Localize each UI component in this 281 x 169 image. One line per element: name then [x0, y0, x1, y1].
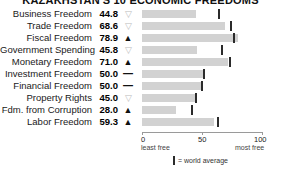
bar-track: [142, 106, 263, 114]
value-bar: [142, 34, 238, 42]
row-value: 45.0: [94, 92, 118, 104]
trend-down-icon: ▽: [122, 44, 134, 56]
chart-row: Government Spending 45.8 ▽: [0, 44, 281, 56]
row-label: Financial Freedom: [0, 80, 92, 92]
row-value: 59.3: [94, 116, 118, 128]
world-average-marker-icon: [173, 156, 175, 165]
freedoms-bar-chart: Business Freedom 44.8 ▽ Trade Freedom 68…: [0, 8, 281, 132]
chart-row: Investment Freedom 50.0 —: [0, 68, 281, 80]
trend-down-icon: ▽: [122, 92, 134, 104]
chart-row: Property Rights 45.0 ▽: [0, 92, 281, 104]
bar-track: [142, 46, 263, 54]
trend-down-icon: ▽: [122, 20, 134, 32]
row-label: Government Spending: [0, 44, 92, 56]
trend-up-icon: ▲: [122, 116, 134, 128]
world-average-marker: [217, 117, 219, 127]
chart-row: Labor Freedom 59.3 ▲: [0, 116, 281, 128]
row-label: Monetary Freedom: [0, 56, 92, 68]
value-bar: [142, 70, 203, 78]
trend-up-icon: ▲: [122, 104, 134, 116]
chart-row: Fdm. from Corruption 28.0 ▲: [0, 104, 281, 116]
world-average-marker: [218, 9, 220, 19]
row-value: 28.0: [94, 104, 118, 116]
row-label: Trade Freedom: [0, 20, 92, 32]
row-label: Fiscal Freedom: [0, 32, 92, 44]
value-bar: [142, 94, 197, 102]
bar-track: [142, 22, 263, 30]
axis-least-free-label: least free: [141, 144, 170, 151]
axis-most-free-label: most free: [235, 144, 264, 151]
trend-up-icon: ▲: [122, 32, 134, 44]
row-value: 50.0: [94, 68, 118, 80]
row-label: Labor Freedom: [0, 116, 92, 128]
row-label: Property Rights: [0, 92, 92, 104]
chart-row: Business Freedom 44.8 ▽: [0, 8, 281, 20]
chart-row: Monetary Freedom 71.0 ▲: [0, 56, 281, 68]
legend-label: = world average: [178, 157, 228, 164]
value-bar: [142, 118, 214, 126]
world-average-marker: [203, 69, 205, 79]
chart-title-clip: KAZAKHSTAN'S 10 ECONOMIC FREEDOMS: [0, 0, 281, 8]
value-bar: [142, 46, 197, 54]
page-title: KAZAKHSTAN'S 10 ECONOMIC FREEDOMS: [22, 0, 258, 6]
bar-track: [142, 82, 263, 90]
axis-tick-label: 0: [141, 135, 145, 144]
world-average-marker: [229, 57, 231, 67]
world-average-marker: [191, 105, 193, 115]
chart-row: Financial Freedom 50.0 —: [0, 80, 281, 92]
chart-row: Trade Freedom 68.6 ▽: [0, 20, 281, 32]
row-value: 50.0: [94, 80, 118, 92]
world-average-marker: [201, 81, 203, 91]
trend-flat-icon: —: [122, 80, 134, 92]
trend-flat-icon: —: [122, 68, 134, 80]
legend: = world average: [173, 155, 228, 165]
row-value: 78.9: [94, 32, 118, 44]
row-label: Investment Freedom: [0, 68, 92, 80]
row-value: 71.0: [94, 56, 118, 68]
value-bar: [142, 10, 196, 18]
value-bar: [142, 22, 225, 30]
row-value: 45.8: [94, 44, 118, 56]
world-average-marker: [233, 33, 235, 43]
row-label: Business Freedom: [0, 8, 92, 20]
value-bar: [142, 82, 203, 90]
row-value: 68.6: [94, 20, 118, 32]
trend-down-icon: ▽: [122, 8, 134, 20]
value-bar: [142, 106, 176, 114]
row-label: Fdm. from Corruption: [0, 104, 92, 116]
bar-track: [142, 10, 263, 18]
bar-track: [142, 94, 263, 102]
world-average-marker: [221, 45, 223, 55]
value-bar: [142, 58, 228, 66]
bar-track: [142, 118, 263, 126]
chart-row: Fiscal Freedom 78.9 ▲: [0, 32, 281, 44]
world-average-marker: [195, 93, 197, 103]
bar-track: [142, 70, 263, 78]
world-average-marker: [230, 21, 232, 31]
trend-up-icon: ▲: [122, 56, 134, 68]
axis-tick-label: 100: [254, 135, 267, 144]
axis-tick-label: 50: [198, 135, 206, 144]
row-value: 44.8: [94, 8, 118, 20]
bar-track: [142, 58, 263, 66]
bar-track: [142, 34, 263, 42]
